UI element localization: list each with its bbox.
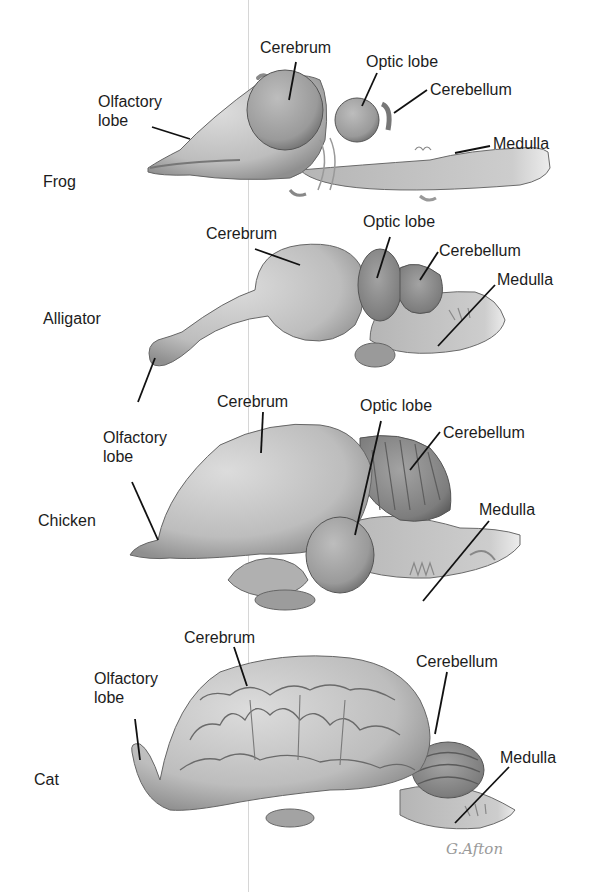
chicken-medulla-label: Medulla: [479, 500, 535, 519]
label-line-2: lobe: [103, 447, 167, 466]
frog-cerebrum-label: Cerebrum: [260, 38, 331, 57]
label-line-1: Olfactory: [98, 92, 162, 111]
frog-medulla-label: Medulla: [493, 134, 549, 153]
cat-cerebrum-label: Cerebrum: [184, 628, 255, 647]
species-label-alligator: Alligator: [43, 309, 101, 328]
chicken-optic-lobe-label: Optic lobe: [360, 396, 432, 415]
label-line-1: Olfactory: [103, 428, 167, 447]
brain-comparison-diagram: Olfactory lobe Cerebrum Optic lobe Cereb…: [0, 0, 599, 892]
label-line-1: Olfactory: [94, 669, 158, 688]
alligator-cerebellum-label: Cerebellum: [439, 241, 521, 260]
species-label-cat: Cat: [34, 770, 59, 789]
alligator-brain: [149, 244, 505, 367]
artist-signature: G.Afton: [446, 840, 503, 858]
cat-brain: [132, 656, 515, 829]
chicken-cerebrum-label: Cerebrum: [217, 392, 288, 411]
frog-optic-lobe-label: Optic lobe: [366, 52, 438, 71]
species-label-frog: Frog: [43, 172, 76, 191]
alligator-optic-lobe-label: Optic lobe: [363, 212, 435, 231]
cat-olfactory-lobe-label: Olfactory lobe: [94, 669, 158, 707]
alligator-medulla-label: Medulla: [497, 270, 553, 289]
label-line-2: lobe: [94, 688, 158, 707]
chicken-cerebellum-label: Cerebellum: [443, 423, 525, 442]
frog-olfactory-lobe-label: Olfactory lobe: [98, 92, 162, 130]
frog-cerebellum-label: Cerebellum: [430, 80, 512, 99]
cat-medulla-label: Medulla: [500, 748, 556, 767]
cat-cerebellum-label: Cerebellum: [416, 652, 498, 671]
label-line-2: lobe: [98, 111, 162, 130]
chicken-brain: [130, 424, 520, 610]
alligator-cerebrum-label: Cerebrum: [206, 224, 277, 243]
species-label-chicken: Chicken: [38, 511, 96, 530]
chicken-olfactory-lobe-label: Olfactory lobe: [103, 428, 167, 466]
